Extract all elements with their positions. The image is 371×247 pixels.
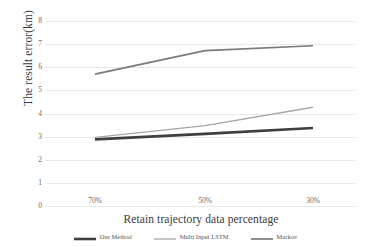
x-axis-tick-labels: 70%50%30% [0, 196, 371, 208]
y-tick-label: 3 [20, 133, 42, 141]
y-tick-label: 2 [20, 156, 42, 164]
y-tick-label: 5 [20, 86, 42, 94]
legend-label: Multi Input LSTM [180, 233, 229, 241]
legend: Our MethodMulti Input LSTMMarkov [0, 228, 371, 246]
plot-area [45, 21, 355, 206]
y-axis-tick-labels: 012345678 [18, 0, 42, 247]
x-tick-label: 70% [75, 196, 115, 205]
y-tick-label: 7 [20, 40, 42, 48]
y-tick-label: 1 [20, 179, 42, 187]
x-tick-label: 30% [293, 196, 333, 205]
legend-label: Our Method [100, 233, 132, 241]
line-chart: The result error(km) 012345678 70%50%30%… [0, 0, 371, 247]
legend-item[interactable]: Our Method [74, 228, 132, 246]
x-axis-title: Retain trajectory data percentage [45, 213, 357, 225]
legend-line-swatch [154, 228, 176, 246]
y-tick-label: 8 [20, 17, 42, 25]
series-layer [45, 21, 355, 206]
legend-label: Markov [277, 233, 298, 241]
legend-item[interactable]: Multi Input LSTM [154, 228, 229, 246]
y-tick-label: 4 [20, 110, 42, 118]
x-tick-label: 50% [185, 196, 225, 205]
legend-line-swatch [74, 228, 96, 246]
series-line [95, 46, 313, 74]
y-tick-label: 6 [20, 63, 42, 71]
legend-line-swatch [251, 228, 273, 246]
legend-item[interactable]: Markov [251, 228, 298, 246]
